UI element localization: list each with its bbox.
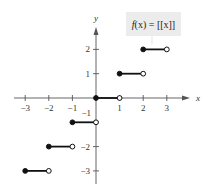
closed-endpoint xyxy=(23,169,28,174)
closed-endpoint xyxy=(46,144,51,149)
closed-endpoint xyxy=(141,47,146,52)
function-label-arg: (x) xyxy=(135,19,147,31)
open-endpoint xyxy=(141,71,146,76)
x-tick-label: 2 xyxy=(141,103,146,113)
x-tick-label: −2 xyxy=(44,103,54,113)
step-segment xyxy=(46,144,74,149)
open-endpoint xyxy=(164,47,169,52)
closed-endpoint xyxy=(117,71,122,76)
open-endpoint xyxy=(94,120,99,125)
step-segment xyxy=(94,96,122,101)
closed-endpoint xyxy=(70,120,75,125)
y-tick-label: −1 xyxy=(81,108,91,118)
y-tick-label: 2 xyxy=(86,44,91,54)
x-axis-arrow xyxy=(182,96,190,101)
open-endpoint xyxy=(46,169,51,174)
function-label-rhs: [[x]] xyxy=(157,19,175,30)
y-axis-label: y xyxy=(93,13,98,23)
closed-endpoint xyxy=(94,96,99,101)
x-tick-label: 1 xyxy=(117,103,122,113)
y-tick-label: 1 xyxy=(86,69,91,79)
y-tick-label: −3 xyxy=(80,166,90,176)
function-label-eq: = xyxy=(146,19,157,30)
x-axis-label: x xyxy=(195,93,200,103)
y-tick-label: −2 xyxy=(80,142,90,152)
function-label: f(x) = [[x]] xyxy=(126,12,181,44)
step-segment xyxy=(117,71,145,76)
step-segment xyxy=(23,169,51,174)
y-axis-arrow xyxy=(94,27,99,35)
open-endpoint xyxy=(70,144,75,149)
x-tick-label: −1 xyxy=(68,103,78,113)
x-tick-label: −3 xyxy=(20,103,30,113)
x-tick-label: 3 xyxy=(165,103,170,113)
function-label-text: f(x) = [[x]] xyxy=(132,19,175,31)
ticks: −3−2−1123−3−2−112 xyxy=(20,44,169,176)
step-segment xyxy=(70,120,98,125)
step-segment xyxy=(141,47,169,52)
step-function-graph: xy −3−2−1123−3−2−112 f(x) = [[x]] xyxy=(0,0,208,193)
open-endpoint xyxy=(117,96,122,101)
